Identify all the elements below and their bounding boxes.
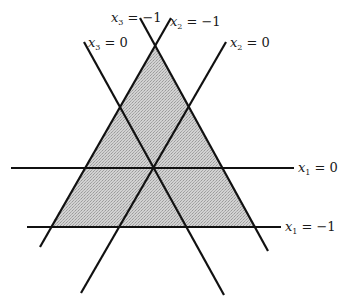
constraint-diagram: x1= 0 x1= −1 x2= 0 x3= 0 x3= −1 x2= −1 [0, 0, 345, 307]
label-x2-eq-minus1: x2= −1 [170, 14, 221, 31]
feasible-triangle [50, 47, 256, 227]
label-x1-eq-0: x1= 0 [298, 160, 338, 177]
label-x3-eq-minus1: x3= −1 [111, 10, 162, 27]
label-x1-eq-minus1: x1= −1 [285, 219, 336, 236]
label-x2-eq-0: x2= 0 [230, 35, 270, 52]
label-x3-eq-0: x3= 0 [88, 35, 128, 52]
